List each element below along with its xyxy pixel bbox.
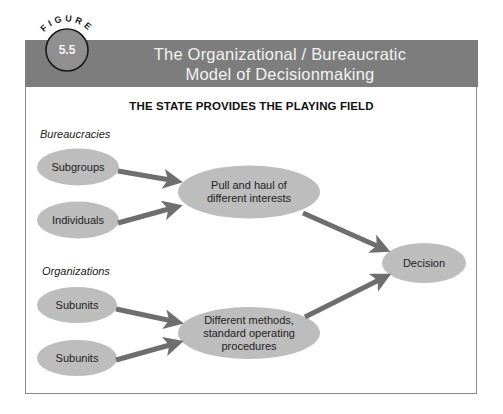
node-individuals-label: Individuals [52, 214, 104, 227]
arrow-individuals-to-pull [118, 207, 176, 223]
arrow-methods-to-decision [305, 277, 385, 317]
node-subgroups-label: Subgroups [51, 161, 104, 174]
arrow-subunits2-to-methods [116, 343, 177, 360]
node-subunits-2-label: Subunits [56, 352, 99, 365]
pull-line-2: different interests [207, 192, 291, 205]
arrow-pull-to-decision [303, 213, 384, 249]
methods-line-2: standard operating [203, 327, 295, 340]
node-subunits-1-label: Subunits [56, 299, 99, 312]
arrow-subgroups-to-pull [118, 171, 176, 181]
figure-canvas: The Organizational / Bureaucratic Model … [0, 0, 503, 414]
pull-line-1: Pull and haul of [207, 179, 291, 192]
methods-line-1: Different methods, [203, 314, 295, 327]
node-different-methods-label: Different methods, standard operating pr… [203, 314, 295, 353]
node-pull-and-haul-label: Pull and haul of different interests [207, 179, 291, 205]
node-decision-label: Decision [403, 257, 445, 270]
methods-line-3: procedures [203, 340, 295, 353]
arrow-subunits1-to-methods [116, 309, 177, 322]
